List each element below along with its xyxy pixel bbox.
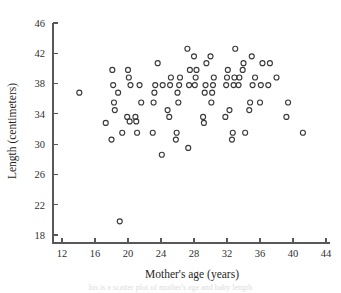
data-point	[241, 61, 246, 66]
data-point	[127, 119, 132, 124]
x-tick-label-20: 20	[123, 248, 134, 259]
data-point	[187, 67, 192, 72]
data-point	[243, 130, 248, 135]
data-point	[211, 75, 216, 80]
data-point	[152, 90, 157, 95]
data-point	[208, 54, 213, 59]
data-point	[284, 114, 289, 119]
data-point	[150, 130, 155, 135]
data-point	[227, 108, 232, 113]
data-point	[175, 90, 180, 95]
data-point	[204, 61, 209, 66]
data-point	[160, 83, 165, 88]
data-point	[231, 83, 236, 88]
data-point	[250, 83, 255, 88]
x-tick-label-28: 28	[189, 248, 200, 259]
data-point	[223, 114, 228, 119]
data-point	[135, 130, 140, 135]
data-point	[253, 75, 258, 80]
data-point	[77, 90, 82, 95]
data-point	[168, 75, 173, 80]
data-point	[112, 108, 117, 113]
y-axis-title: Length (centimeters)	[6, 83, 19, 179]
data-point	[167, 114, 172, 119]
axis-ticks	[53, 23, 326, 243]
data-point	[120, 130, 125, 135]
data-point	[110, 67, 115, 72]
data-point	[128, 83, 133, 88]
data-point	[209, 100, 214, 105]
y-tick-label-22: 22	[35, 200, 46, 211]
data-point	[168, 83, 173, 88]
data-point	[249, 54, 254, 59]
data-point	[258, 100, 263, 105]
data-point	[237, 75, 242, 80]
x-tick-label-16: 16	[90, 248, 101, 259]
data-point	[103, 120, 108, 125]
data-point	[233, 46, 238, 51]
axis-tick-labels: 1822263034384246121620242832364044	[35, 18, 333, 259]
y-tick-label-34: 34	[35, 109, 46, 120]
x-tick-label-40: 40	[288, 248, 299, 259]
data-point	[247, 108, 252, 113]
y-tick-label-26: 26	[35, 169, 46, 180]
data-point	[201, 114, 206, 119]
data-point	[126, 75, 131, 80]
data-point	[109, 137, 114, 142]
data-point	[174, 130, 179, 135]
data-point	[229, 137, 234, 142]
data-point	[192, 83, 197, 88]
x-tick-label-32: 32	[222, 248, 233, 259]
data-point	[232, 75, 237, 80]
data-point	[185, 46, 190, 51]
data-point	[117, 219, 122, 224]
data-point	[224, 83, 229, 88]
y-tick-label-46: 46	[35, 18, 46, 29]
data-point	[111, 100, 116, 105]
figure-caption-partial: his is a scatter plot of mother's age an…	[0, 283, 341, 293]
scatter-plot-figure: 1822263034384246121620242832364044 Mothe…	[0, 0, 341, 293]
data-point	[274, 75, 279, 80]
data-point	[177, 75, 182, 80]
data-point	[176, 100, 181, 105]
data-point	[248, 100, 253, 105]
data-point	[225, 67, 230, 72]
data-point	[153, 83, 158, 88]
data-point	[126, 67, 131, 72]
y-tick-label-30: 30	[35, 139, 46, 150]
data-point	[155, 61, 160, 66]
data-point	[266, 83, 271, 88]
data-point	[187, 83, 192, 88]
data-point	[258, 83, 263, 88]
data-point	[177, 83, 182, 88]
data-point	[186, 145, 191, 150]
x-axis-title: Mother's age (years)	[145, 268, 239, 281]
data-point	[137, 83, 142, 88]
data-point	[193, 75, 198, 80]
data-point	[111, 83, 116, 88]
y-tick-label-42: 42	[35, 48, 46, 59]
data-point	[230, 130, 235, 135]
data-point	[192, 54, 197, 59]
data-point	[151, 100, 156, 105]
y-tick-label-38: 38	[35, 78, 46, 89]
data-point	[139, 100, 144, 105]
x-tick-label-36: 36	[255, 248, 266, 259]
data-point	[260, 61, 265, 66]
data-point	[201, 120, 206, 125]
data-point	[267, 61, 272, 66]
data-point	[210, 90, 215, 95]
data-point	[210, 83, 215, 88]
data-point	[236, 83, 241, 88]
y-tick-label-18: 18	[35, 230, 46, 241]
x-tick-label-24: 24	[156, 248, 167, 259]
x-tick-label-44: 44	[321, 248, 332, 259]
data-points	[77, 46, 306, 224]
data-point	[300, 130, 305, 135]
data-point	[203, 83, 208, 88]
data-point	[286, 100, 291, 105]
data-point	[165, 108, 170, 113]
data-point	[194, 67, 199, 72]
x-tick-label-12: 12	[57, 248, 68, 259]
data-point	[159, 152, 164, 157]
